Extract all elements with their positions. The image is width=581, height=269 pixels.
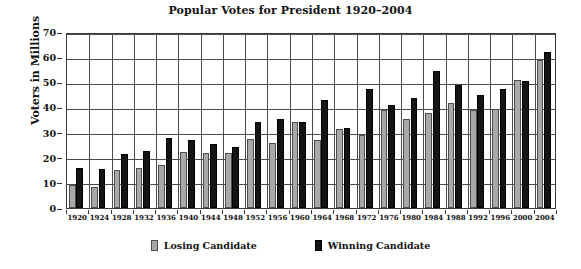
y-tick-label: 40	[2, 103, 56, 113]
y-tick-mark	[57, 33, 62, 34]
bar-winning	[99, 169, 106, 208]
legend-label-winning: Winning Candidate	[328, 240, 431, 251]
y-tick-label: 70	[2, 28, 56, 38]
y-tick-label: 60	[2, 53, 56, 63]
bar-winning	[188, 140, 195, 208]
x-tick-label: 1944	[200, 214, 222, 221]
y-tick-mark	[57, 133, 62, 134]
chart-legend: Losing Candidate Winning Candidate	[0, 240, 581, 251]
bar-losing	[492, 109, 499, 208]
bar-losing	[537, 60, 544, 208]
bar-losing	[91, 187, 98, 208]
bar-losing	[225, 153, 232, 208]
bar-winning	[76, 168, 83, 208]
y-tick-label: 0	[2, 204, 56, 214]
bar-losing	[403, 119, 410, 208]
bar-losing	[269, 143, 276, 208]
bar-losing	[359, 135, 366, 208]
bar-winning	[255, 122, 262, 208]
bar-losing	[514, 80, 521, 208]
x-tick-label: 2000	[511, 214, 533, 221]
bar-winning	[232, 147, 239, 208]
bar-winning	[321, 100, 328, 208]
legend-swatch-winning-icon	[315, 240, 322, 251]
x-tick-label: 1928	[111, 214, 133, 221]
y-axis-ticks: 010203040506070	[0, 33, 62, 209]
bar-losing	[336, 129, 343, 208]
bar-losing	[114, 170, 121, 208]
x-tick-label: 1996	[489, 214, 511, 221]
y-tick-mark	[57, 209, 62, 210]
legend-swatch-losing-icon	[151, 240, 158, 251]
bar-winning	[143, 151, 150, 208]
bar-losing	[448, 103, 455, 208]
x-tick-label: 1936	[155, 214, 177, 221]
x-tick-label: 1992	[467, 214, 489, 221]
bar-losing	[425, 113, 432, 208]
y-tick-mark	[57, 83, 62, 84]
x-tick-label: 1964	[311, 214, 333, 221]
x-tick-label: 1920	[66, 214, 88, 221]
bar-losing	[247, 139, 254, 208]
x-tick-mark	[556, 210, 557, 214]
x-tick-label: 1956	[266, 214, 288, 221]
y-tick-label: 20	[2, 154, 56, 164]
bar-winning	[210, 144, 217, 208]
x-tick-label: 1940	[177, 214, 199, 221]
bar-winning	[388, 105, 395, 208]
legend-label-losing: Losing Candidate	[164, 240, 257, 251]
x-tick-label: 1924	[88, 214, 110, 221]
bar-winning	[299, 122, 306, 208]
bar-losing	[69, 185, 76, 208]
y-tick-label: 30	[2, 129, 56, 139]
y-tick-mark	[57, 158, 62, 159]
x-tick-label: 1932	[133, 214, 155, 221]
plot-area	[66, 33, 556, 209]
y-tick-label: 50	[2, 78, 56, 88]
x-tick-label: 1984	[422, 214, 444, 221]
bar-winning	[166, 138, 173, 208]
x-tick-label: 1960	[289, 214, 311, 221]
bar-winning	[433, 71, 440, 208]
chart-container: Popular Votes for President 1920–2004 Vo…	[0, 0, 581, 269]
bar-winning	[477, 95, 484, 208]
bars-layer	[67, 34, 555, 208]
bar-losing	[203, 153, 210, 208]
x-tick-label: 1972	[356, 214, 378, 221]
x-tick-label: 1976	[378, 214, 400, 221]
bar-winning	[455, 85, 462, 208]
y-tick-label: 10	[2, 179, 56, 189]
bar-winning	[500, 89, 507, 208]
bar-winning	[366, 89, 373, 208]
bar-winning	[411, 98, 418, 208]
bar-winning	[277, 119, 284, 209]
bar-losing	[314, 140, 321, 208]
bar-losing	[158, 165, 165, 208]
x-tick-label: 1952	[244, 214, 266, 221]
y-tick-mark	[57, 183, 62, 184]
bar-losing	[292, 122, 299, 208]
bar-losing	[180, 152, 187, 208]
bar-losing	[470, 110, 477, 208]
x-tick-label: 1988	[445, 214, 467, 221]
legend-item-winning: Winning Candidate	[315, 240, 431, 251]
y-tick-mark	[57, 58, 62, 59]
bar-losing	[136, 168, 143, 208]
x-tick-label: 2004	[534, 214, 556, 221]
bar-losing	[381, 110, 388, 208]
legend-item-losing: Losing Candidate	[151, 240, 257, 251]
x-tick-label: 1968	[333, 214, 355, 221]
bar-winning	[522, 81, 529, 208]
x-tick-label: 1980	[400, 214, 422, 221]
bar-winning	[121, 154, 128, 208]
y-tick-mark	[57, 108, 62, 109]
x-axis-ticks: 1920192419281932193619401944194819521956…	[66, 210, 556, 232]
chart-title: Popular Votes for President 1920–2004	[0, 4, 581, 17]
bar-winning	[344, 128, 351, 208]
x-tick-label: 1948	[222, 214, 244, 221]
bar-winning	[544, 52, 551, 208]
